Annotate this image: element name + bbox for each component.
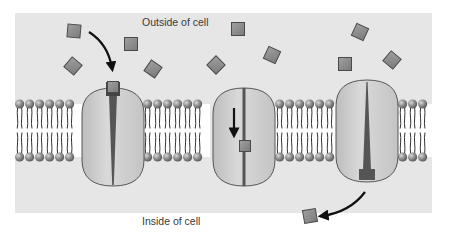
lipid-tail bbox=[199, 107, 200, 129]
lipid-tail bbox=[297, 107, 298, 129]
lipid-head bbox=[408, 152, 417, 161]
lipid-tail bbox=[169, 133, 170, 155]
lipid-tail bbox=[404, 107, 405, 129]
lipid-tail bbox=[301, 133, 302, 155]
lipid-tail bbox=[321, 133, 322, 155]
membrane-segment bbox=[275, 99, 336, 161]
lipid-head bbox=[183, 152, 192, 161]
lipid-tail bbox=[420, 133, 421, 155]
lipid-head bbox=[275, 152, 284, 161]
lipid-tail bbox=[61, 133, 62, 155]
lipid-head bbox=[55, 99, 64, 108]
lipid-tail bbox=[21, 133, 22, 155]
lipid-head bbox=[163, 152, 172, 161]
lipid-head bbox=[315, 152, 324, 161]
lipid-tail bbox=[149, 107, 150, 129]
lipid-tail bbox=[67, 133, 68, 155]
lipid-tail bbox=[57, 133, 58, 155]
lipid-tail bbox=[307, 107, 308, 129]
lipid-head bbox=[65, 152, 74, 161]
solute-molecule-outside bbox=[67, 24, 81, 38]
lipid-head bbox=[45, 99, 54, 108]
lipid-tail bbox=[47, 107, 48, 129]
lipid-tail bbox=[37, 133, 38, 155]
carrier-proteins bbox=[82, 80, 398, 186]
lipid-tail bbox=[281, 107, 282, 129]
lipid-tail bbox=[47, 133, 48, 155]
lipid-head bbox=[65, 99, 74, 108]
lipid-tail bbox=[27, 133, 28, 155]
lipid-tail bbox=[31, 133, 32, 155]
lipid-tail bbox=[185, 133, 186, 155]
lipid-tail bbox=[414, 133, 415, 155]
lipid-tail bbox=[331, 107, 332, 129]
lipid-tail bbox=[169, 107, 170, 129]
lipid-head bbox=[325, 99, 334, 108]
lipid-head bbox=[305, 152, 314, 161]
lipid-head bbox=[408, 99, 417, 108]
lipid-head bbox=[285, 152, 294, 161]
lipid-tail bbox=[277, 107, 278, 129]
lipid-tail bbox=[307, 133, 308, 155]
lipid-tail bbox=[145, 133, 146, 155]
lipid-head bbox=[295, 99, 304, 108]
lipid-tail bbox=[277, 133, 278, 155]
lipid-head bbox=[305, 99, 314, 108]
lipid-tail bbox=[414, 107, 415, 129]
lipid-tail bbox=[424, 107, 425, 129]
lipid-tail bbox=[61, 107, 62, 129]
lipid-head bbox=[15, 152, 24, 161]
lipid-tail bbox=[27, 107, 28, 129]
lipid-head bbox=[153, 152, 162, 161]
lipid-tail bbox=[185, 107, 186, 129]
carrier-protein-open-outside bbox=[82, 82, 144, 186]
lipid-tail bbox=[37, 107, 38, 129]
lipid-tail bbox=[327, 107, 328, 129]
lipid-head bbox=[25, 152, 34, 161]
lipid-tail bbox=[57, 107, 58, 129]
lipid-tail bbox=[179, 133, 180, 155]
lipid-tail bbox=[165, 107, 166, 129]
lipid-tail bbox=[195, 133, 196, 155]
lipid-head bbox=[173, 99, 182, 108]
lipid-tail bbox=[21, 107, 22, 129]
lipid-tail bbox=[189, 107, 190, 129]
lipid-head bbox=[193, 99, 202, 108]
lipid-head bbox=[45, 152, 54, 161]
lipid-tail bbox=[410, 107, 411, 129]
lipid-head bbox=[193, 152, 202, 161]
solute-molecule-outside bbox=[232, 23, 245, 36]
lipid-tail bbox=[321, 107, 322, 129]
lipid-head bbox=[25, 99, 34, 108]
lipid-head bbox=[398, 99, 407, 108]
lipid-head bbox=[173, 152, 182, 161]
lipid-tail bbox=[281, 133, 282, 155]
lipid-tail bbox=[311, 133, 312, 155]
lipid-tail bbox=[420, 107, 421, 129]
lipid-tail bbox=[31, 107, 32, 129]
lipid-head bbox=[183, 99, 192, 108]
carrier-protein-open-inside bbox=[336, 80, 398, 182]
lipid-tail bbox=[67, 107, 68, 129]
lipid-tail bbox=[327, 133, 328, 155]
lipid-tail bbox=[175, 107, 176, 129]
lipid-head bbox=[398, 152, 407, 161]
lipid-head bbox=[315, 99, 324, 108]
lipid-tail bbox=[301, 107, 302, 129]
lipid-tail bbox=[311, 107, 312, 129]
release-site bbox=[359, 169, 375, 180]
lipid-tail bbox=[17, 107, 18, 129]
lipid-tail bbox=[159, 133, 160, 155]
lipid-tail bbox=[159, 107, 160, 129]
lipid-tail bbox=[297, 133, 298, 155]
lipid-tail bbox=[51, 133, 52, 155]
lipid-head bbox=[285, 99, 294, 108]
lipid-tail bbox=[291, 107, 292, 129]
lipid-tail bbox=[155, 133, 156, 155]
lipid-tail bbox=[179, 107, 180, 129]
lipid-tail bbox=[287, 107, 288, 129]
lipid-tail bbox=[189, 133, 190, 155]
lipid-tail bbox=[71, 107, 72, 129]
lipid-head bbox=[143, 99, 152, 108]
lipid-tail bbox=[331, 133, 332, 155]
